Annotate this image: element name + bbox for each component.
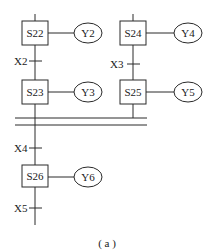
- transition-x5: X5: [14, 202, 42, 214]
- transition-x2: X2: [14, 55, 42, 67]
- step-label: S23: [26, 86, 44, 98]
- output-label: Y4: [181, 27, 195, 39]
- output-label: Y5: [181, 86, 195, 98]
- sfc-diagram: S22 Y2 X2 S23 Y3 S24 Y4 X3 S25 Y5: [0, 0, 213, 252]
- transition-x4: X4: [14, 142, 42, 154]
- transition-x3: X3: [110, 58, 140, 70]
- transition-label: X4: [14, 142, 28, 154]
- step-s24: S24 Y4: [120, 21, 202, 45]
- figure-caption: ( a ): [98, 237, 116, 250]
- transition-label: X2: [14, 55, 27, 67]
- step-s26: S26 Y6: [22, 165, 102, 187]
- step-label: S26: [26, 170, 44, 182]
- step-s25: S25 Y5: [120, 80, 202, 104]
- output-label: Y2: [81, 27, 94, 39]
- output-label: Y6: [81, 171, 95, 183]
- transition-label: X5: [14, 202, 28, 214]
- step-label: S24: [124, 27, 142, 39]
- step-s23: S23 Y3: [22, 80, 102, 104]
- transition-label: X3: [110, 58, 124, 70]
- output-label: Y3: [81, 86, 95, 98]
- step-s22: S22 Y2: [22, 21, 102, 45]
- step-label: S25: [124, 86, 142, 98]
- step-label: S22: [26, 27, 43, 39]
